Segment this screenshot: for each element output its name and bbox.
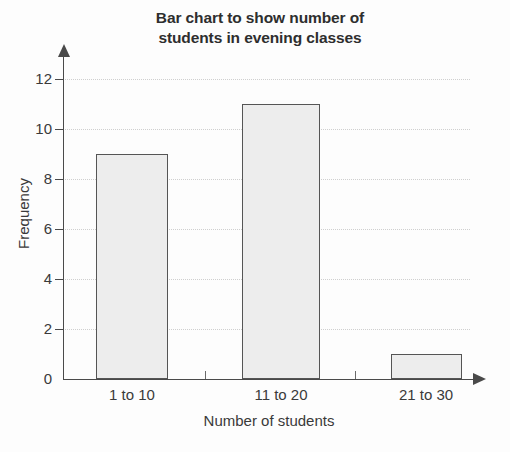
y-tick-label-10: 10 (26, 120, 52, 137)
x-tick-mark-1 (205, 371, 206, 379)
y-tick-mark-4 (55, 279, 64, 280)
x-tick-label-11-to-20: 11 to 20 (231, 386, 331, 403)
bar-chart-figure: Bar chart to show number of students in … (0, 0, 510, 452)
x-tick-mark-2 (355, 371, 356, 379)
y-axis-line (63, 55, 64, 380)
y-tick-mark-10 (55, 129, 64, 130)
y-axis-title: Frequency (15, 154, 32, 274)
y-tick-label-2: 2 (26, 320, 52, 337)
chart-title-line-2: students in evening classes (60, 28, 460, 48)
y-tick-mark-12 (55, 79, 64, 80)
bar-21-to-30 (391, 354, 462, 379)
y-tick-label-0: 0 (26, 370, 52, 387)
y-axis-arrow-icon (58, 44, 70, 57)
x-axis-line (63, 379, 475, 380)
bar-1-to-10 (96, 154, 168, 379)
x-axis-arrow-icon (473, 373, 486, 385)
x-axis-title: Number of students (63, 412, 475, 429)
gridline-12 (63, 79, 470, 80)
y-tick-mark-8 (55, 179, 64, 180)
bar-11-to-20 (242, 104, 320, 379)
chart-title: Bar chart to show number of students in … (60, 8, 460, 48)
x-tick-label-1-to-10: 1 to 10 (82, 386, 182, 403)
y-tick-mark-2 (55, 329, 64, 330)
x-tick-label-21-to-30: 21 to 30 (376, 386, 476, 403)
chart-title-line-1: Bar chart to show number of (60, 8, 460, 28)
y-tick-label-12: 12 (26, 70, 52, 87)
y-tick-mark-6 (55, 229, 64, 230)
